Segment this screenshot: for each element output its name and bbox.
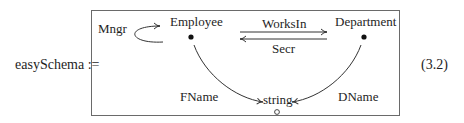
employee-node-dot [188, 34, 193, 39]
string-node-circle [275, 110, 280, 115]
node-label-employee: Employee [170, 15, 223, 28]
edge-label-dname: DName [338, 90, 378, 103]
department-node-dot [361, 34, 366, 39]
node-label-department: Department [335, 15, 396, 28]
edge-label-worksin: WorksIn [262, 17, 306, 30]
edge-label-mngr: Mngr [98, 22, 127, 35]
edge-label-fname: FName [180, 90, 218, 103]
node-label-string: string [263, 93, 293, 106]
edge-label-secr: Secr [272, 42, 295, 55]
mngr-loop-arrow [135, 26, 163, 42]
